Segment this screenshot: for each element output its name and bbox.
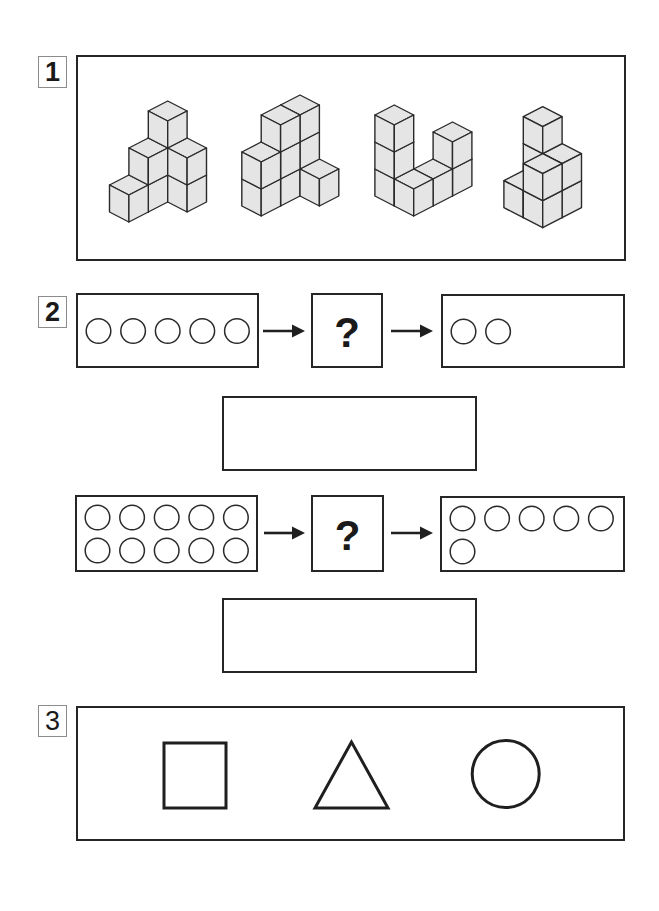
counter-circle — [223, 505, 248, 530]
counter-circle — [223, 538, 248, 563]
question-mark: ? — [335, 515, 361, 557]
counter-circle — [120, 318, 145, 343]
counters — [75, 495, 258, 572]
counter-circle — [451, 319, 476, 344]
counter-circle — [86, 318, 111, 343]
counter-circle — [189, 505, 214, 530]
section-2-number: 2 — [38, 296, 67, 328]
unknown-operation-box-2: ? — [311, 495, 384, 572]
counters — [76, 293, 259, 368]
output-circles-box-2 — [440, 496, 625, 572]
counter-circle — [224, 318, 249, 343]
section-3-number: 3 — [38, 705, 67, 737]
arrow-right-icon — [264, 527, 305, 540]
answer-box-2[interactable] — [222, 598, 477, 673]
counter-circle — [190, 318, 215, 343]
counter-circle — [85, 538, 110, 563]
input-circles-box-1 — [76, 293, 259, 368]
answer-box-1[interactable] — [222, 396, 477, 471]
cube-figures-panel — [76, 55, 626, 261]
counter-circle — [554, 506, 579, 531]
counter-circle — [450, 506, 475, 531]
question-mark: ? — [334, 312, 360, 354]
counter-circle — [189, 538, 214, 563]
counter-circle — [155, 318, 180, 343]
counter-circle — [154, 505, 179, 530]
counter-circle — [85, 505, 110, 530]
unknown-operation-box-1: ? — [311, 293, 383, 368]
input-circles-box-2 — [75, 495, 258, 572]
section-1-number: 1 — [38, 56, 67, 88]
counter-circle — [450, 539, 475, 564]
arrow-right-icon — [391, 527, 433, 540]
counters — [440, 496, 625, 572]
counter-circle — [485, 319, 510, 344]
counter-circle — [484, 506, 509, 531]
counters — [441, 294, 625, 368]
counter-circle — [119, 538, 144, 563]
counter-circle — [588, 506, 613, 531]
output-circles-box-1 — [441, 294, 625, 368]
arrow-right-icon — [263, 325, 305, 338]
arrow-right-icon — [391, 325, 433, 338]
counter-circle — [519, 506, 544, 531]
counter-circle — [119, 505, 144, 530]
shapes-panel — [76, 706, 625, 841]
counter-circle — [154, 538, 179, 563]
